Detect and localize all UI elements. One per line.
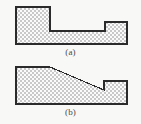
figure-canvas — [0, 0, 141, 124]
panel-caption-b: (b) — [0, 107, 141, 117]
shape-a-stepped-block — [16, 7, 127, 44]
figure-root: (a) (b) — [0, 0, 141, 124]
panel-caption-a: (a) — [0, 47, 141, 57]
shape-b-tapered-block — [16, 67, 127, 104]
